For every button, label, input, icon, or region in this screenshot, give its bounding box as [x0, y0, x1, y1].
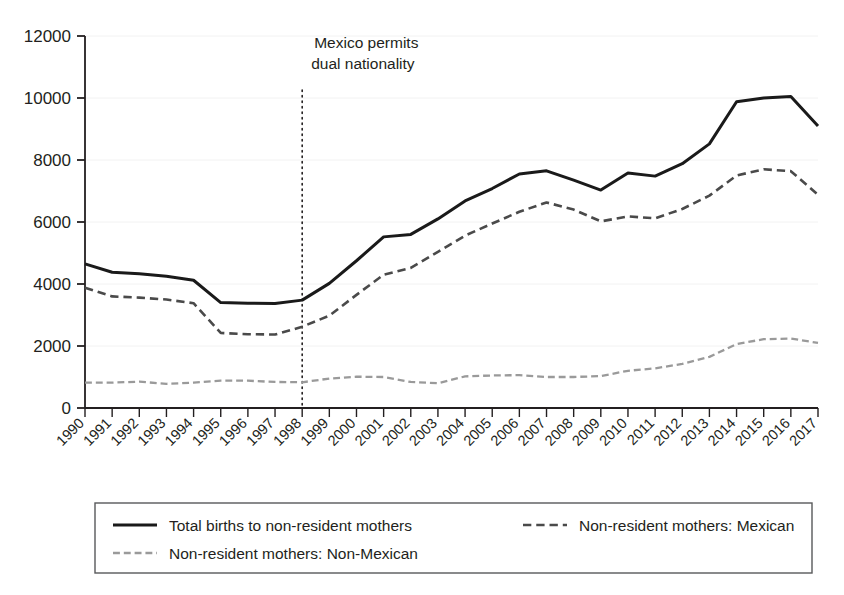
line-chart: 020004000600080001000012000 199019911992… [0, 0, 844, 595]
legend-label-3: Non-resident mothers: Non-Mexican [169, 545, 418, 562]
y-tick-label: 8000 [33, 151, 71, 170]
legend-label-2: Non-resident mothers: Mexican [579, 517, 794, 534]
annotation-line-1: Mexico permits [314, 34, 418, 51]
chart-figure: 020004000600080001000012000 199019911992… [0, 0, 844, 595]
y-tick-label: 6000 [33, 213, 71, 232]
y-tick-label: 4000 [33, 275, 71, 294]
y-tick-label: 2000 [33, 337, 71, 356]
annotation-line-2: dual nationality [311, 55, 415, 72]
y-tick-label: 10000 [24, 89, 71, 108]
y-tick-label: 12000 [24, 27, 71, 46]
y-tick-label: 0 [62, 399, 71, 418]
legend-label-1: Total births to non-resident mothers [169, 517, 412, 534]
